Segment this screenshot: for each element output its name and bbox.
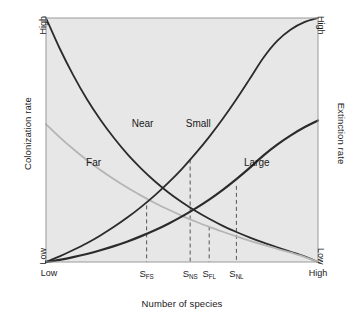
species-tick-label-0: SFS bbox=[140, 268, 154, 279]
curve-label-small: Small bbox=[186, 118, 211, 129]
species-tick-label-2: SFL bbox=[202, 268, 216, 279]
species-tick-label-1: SNS bbox=[183, 268, 198, 279]
left-axis-high-label: High bbox=[38, 16, 48, 46]
right-axis-high-label: High bbox=[316, 16, 326, 46]
species-tick-sub-2: FL bbox=[209, 273, 216, 280]
right-axis-title: Extinction rate bbox=[336, 59, 347, 209]
species-tick-sub-0: FS bbox=[146, 273, 154, 280]
species-tick-sub-3: NL bbox=[236, 273, 244, 280]
x-axis-low-label: Low bbox=[34, 268, 64, 278]
island-biogeography-figure: Colonization rate High Low Extinction ra… bbox=[0, 0, 363, 317]
plot-background-rect bbox=[46, 18, 318, 262]
curve-label-far: Far bbox=[86, 157, 102, 168]
species-tick-sub-1: NS bbox=[189, 273, 198, 280]
species-tick-label-3: SNL bbox=[229, 268, 243, 279]
x-axis-high-label: High bbox=[301, 268, 335, 278]
plot-background bbox=[46, 18, 318, 262]
curve-label-near: Near bbox=[132, 118, 154, 129]
x-axis-title: Number of species bbox=[46, 298, 318, 309]
left-axis-title: Colonization rate bbox=[22, 59, 33, 209]
curve-label-large: Large bbox=[244, 157, 270, 168]
